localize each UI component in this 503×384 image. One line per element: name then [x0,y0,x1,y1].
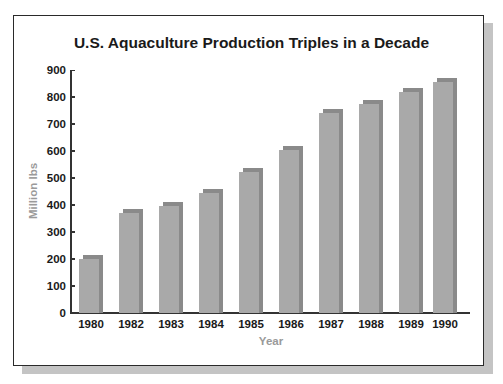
y-tick-label: 0 [20,307,66,319]
bar-1985 [239,172,259,312]
bar-1983 [159,206,179,313]
x-tick-label: 1990 [432,318,458,330]
y-tick [70,258,75,260]
bar-1986 [279,150,299,313]
y-tick [70,231,75,233]
y-tick-label: 600 [20,145,66,157]
bar-1989 [399,92,419,313]
y-tick-label: 800 [20,91,66,103]
x-tick-label: 1984 [198,318,224,330]
x-tick-label: 1988 [358,318,384,330]
y-tick-label: 300 [20,226,66,238]
bar-1990 [433,82,453,313]
bar-1982 [119,213,139,313]
bar-1984 [199,193,219,313]
y-tick-label: 200 [20,253,66,265]
y-tick-label: 100 [20,280,66,292]
y-tick [70,204,75,206]
x-tick-label: 1987 [318,318,344,330]
y-tick-label: 400 [20,199,66,211]
frame-shadow-right [484,23,493,374]
bar-1988 [359,104,379,313]
y-tick [70,96,75,98]
x-tick-label: 1986 [278,318,304,330]
x-axis-label: Year [259,335,283,347]
y-tick [70,150,75,152]
y-tick-label: 500 [20,172,66,184]
y-axis-line [70,70,72,313]
x-tick-label: 1985 [238,318,264,330]
y-tick [70,312,75,314]
chart-title: U.S. Aquaculture Production Triples in a… [0,34,503,52]
y-tick-label: 700 [20,118,66,130]
y-tick [70,177,75,179]
y-tick [70,123,75,125]
bar-1987 [319,113,339,313]
y-tick-label: 900 [20,64,66,76]
x-tick-label: 1980 [78,318,104,330]
x-tick-label: 1983 [158,318,184,330]
frame-shadow-bottom [22,366,493,374]
x-tick-label: 1982 [118,318,144,330]
y-tick [70,285,75,287]
bar-1980 [79,259,99,313]
y-tick [70,70,75,72]
x-tick-label: 1989 [398,318,424,330]
